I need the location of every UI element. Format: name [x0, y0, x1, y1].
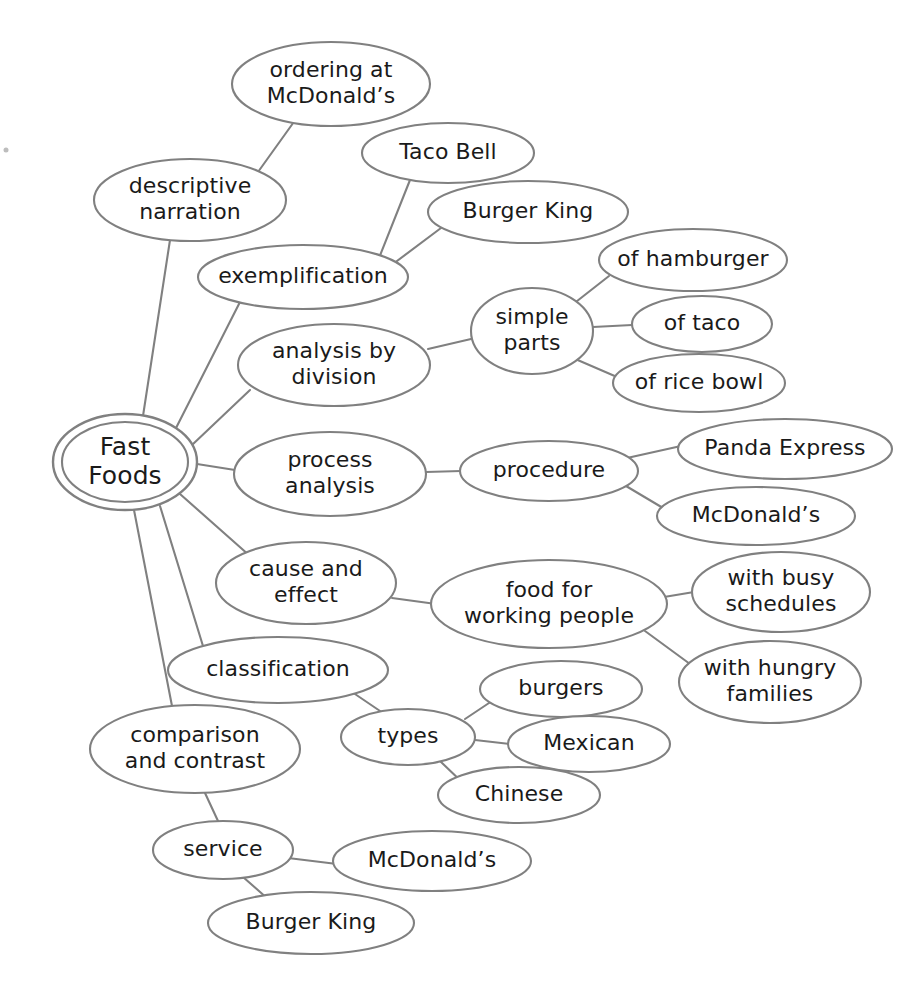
edge-types-mexican	[475, 740, 510, 744]
node-label-cause-and-effect: cause and	[249, 556, 363, 581]
node-process-analysis[interactable]: processanalysis	[234, 432, 426, 516]
node-label-mcdonalds-service: McDonald’s	[368, 847, 496, 872]
node-mexican[interactable]: Mexican	[508, 716, 670, 772]
edge-types-burgers	[465, 701, 492, 719]
edge-food-hungry	[645, 631, 690, 664]
node-label-chinese: Chinese	[475, 781, 564, 806]
mind-map-svg: ordering atMcDonald’sdescriptivenarratio…	[0, 0, 917, 986]
node-comparison-and-contrast[interactable]: comparisonand contrast	[90, 705, 300, 793]
node-label-of-hamburger: of hamburger	[617, 246, 769, 271]
node-burgers[interactable]: burgers	[480, 661, 642, 717]
node-label-process-analysis: process	[287, 447, 372, 472]
node-burger-king-service[interactable]: Burger King	[208, 892, 414, 954]
node-label-taco-bell: Taco Bell	[398, 139, 497, 164]
node-of-hamburger[interactable]: of hamburger	[599, 229, 787, 291]
node-service[interactable]: service	[153, 821, 293, 879]
node-label-burgers: burgers	[518, 675, 603, 700]
node-procedure[interactable]: procedure	[460, 441, 638, 501]
node-label-descriptive-narration: descriptive	[129, 173, 252, 198]
edge-classification-types	[352, 692, 383, 713]
node-label-of-taco: of taco	[664, 310, 741, 335]
node-label-descriptive-narration: narration	[139, 199, 241, 224]
edge-comparison-service	[205, 793, 218, 821]
edge-root-process-analysis	[197, 464, 235, 470]
edge-simple-of-rice-bowl	[573, 358, 617, 377]
edge-descriptive-ordering	[258, 119, 296, 172]
node-chinese[interactable]: Chinese	[438, 767, 600, 823]
edge-simple-of-taco	[593, 325, 632, 327]
edge-analysis-simple-parts	[428, 339, 471, 349]
edge-root-comparison	[134, 510, 172, 706]
edge-root-descriptive-narration	[143, 240, 170, 416]
edge-cause-food-working	[392, 598, 436, 604]
node-types[interactable]: types	[341, 709, 475, 765]
node-descriptive-narration[interactable]: descriptivenarration	[94, 159, 286, 241]
edge-exemplification-taco-bell	[379, 180, 410, 258]
node-of-rice-bowl[interactable]: of rice bowl	[613, 354, 785, 412]
node-label-mexican: Mexican	[543, 730, 634, 755]
node-cause-and-effect[interactable]: cause andeffect	[216, 542, 396, 624]
stray-speck-artifact	[4, 148, 9, 153]
edge-simple-of-hamburger	[572, 276, 609, 305]
node-label-fast-foods: Fast	[100, 432, 151, 461]
node-label-simple-parts: parts	[503, 330, 560, 355]
nodes-layer: ordering atMcDonald’sdescriptivenarratio…	[53, 42, 892, 954]
node-fast-foods[interactable]: FastFoods	[53, 414, 197, 510]
node-label-ordering-at-mcdonalds: McDonald’s	[267, 83, 395, 108]
node-label-with-hungry-families: families	[727, 681, 814, 706]
node-taco-bell[interactable]: Taco Bell	[362, 123, 534, 183]
edge-procedure-panda	[627, 446, 681, 458]
node-label-service: service	[183, 836, 263, 861]
node-label-comparison-and-contrast: and contrast	[125, 748, 266, 773]
node-label-with-busy-schedules: with busy	[728, 565, 835, 590]
node-label-food-for-working-people: working people	[464, 603, 634, 628]
node-simple-parts[interactable]: simpleparts	[471, 288, 593, 374]
edge-root-cause-effect	[180, 494, 250, 556]
node-mcdonalds-procedure[interactable]: McDonald’s	[657, 487, 855, 545]
node-mcdonalds-service[interactable]: McDonald’s	[333, 831, 531, 891]
mind-map-canvas: ordering atMcDonald’sdescriptivenarratio…	[0, 0, 917, 986]
node-label-comparison-and-contrast: comparison	[130, 722, 259, 747]
node-with-busy-schedules[interactable]: with busyschedules	[692, 552, 870, 632]
node-label-burger-king-service: Burger King	[246, 909, 377, 934]
node-label-of-rice-bowl: of rice bowl	[635, 369, 764, 394]
edge-food-busy	[664, 592, 694, 597]
node-label-analysis-by-division: division	[292, 364, 377, 389]
node-label-burger-king-ex: Burger King	[463, 198, 594, 223]
node-label-mcdonalds-procedure: McDonald’s	[692, 502, 820, 527]
edge-root-analysis-division	[192, 390, 250, 445]
node-label-simple-parts: simple	[495, 304, 568, 329]
node-label-with-hungry-families: with hungry	[704, 655, 837, 680]
edge-exemplification-burger-king	[393, 228, 441, 264]
node-panda-express[interactable]: Panda Express	[678, 419, 892, 479]
node-classification[interactable]: classification	[168, 637, 388, 703]
node-with-hungry-families[interactable]: with hungryfamilies	[679, 641, 861, 723]
node-ordering-at-mcdonalds[interactable]: ordering atMcDonald’s	[232, 42, 430, 126]
node-label-fast-foods: Foods	[88, 461, 161, 490]
node-of-taco[interactable]: of taco	[632, 296, 772, 352]
node-label-ordering-at-mcdonalds: ordering at	[270, 57, 393, 82]
node-label-classification: classification	[206, 656, 350, 681]
node-label-with-busy-schedules: schedules	[726, 591, 837, 616]
edge-process-procedure	[426, 471, 461, 472]
edge-service-mcdonalds	[288, 858, 337, 864]
node-label-procedure: procedure	[493, 457, 606, 482]
node-label-exemplification: exemplification	[218, 263, 388, 288]
node-analysis-by-division[interactable]: analysis bydivision	[238, 324, 430, 406]
node-label-food-for-working-people: food for	[506, 577, 594, 602]
node-label-analysis-by-division: analysis by	[272, 338, 396, 363]
edge-root-classification	[160, 506, 203, 646]
node-exemplification[interactable]: exemplification	[198, 245, 408, 309]
node-label-types: types	[377, 723, 438, 748]
node-label-cause-and-effect: effect	[274, 582, 338, 607]
node-food-for-working-people[interactable]: food forworking people	[431, 560, 667, 648]
node-label-process-analysis: analysis	[285, 473, 375, 498]
edge-procedure-mcdonalds	[626, 486, 663, 508]
node-burger-king-ex[interactable]: Burger King	[428, 181, 628, 243]
node-label-panda-express: Panda Express	[704, 435, 865, 460]
edge-root-exemplification	[175, 300, 241, 430]
